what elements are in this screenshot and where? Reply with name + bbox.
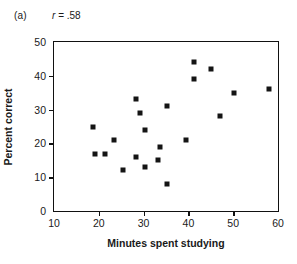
data-point <box>90 124 95 129</box>
data-point <box>183 138 188 143</box>
y-axis-tick-label: 50 <box>34 37 46 48</box>
y-axis-tick <box>49 143 54 145</box>
data-point <box>133 97 138 102</box>
data-point <box>191 60 196 65</box>
data-point <box>217 114 222 119</box>
data-point <box>165 181 170 186</box>
y-axis-tick-label: 10 <box>34 172 46 183</box>
y-axis-tick-label: 0 <box>40 206 46 217</box>
data-point <box>112 138 117 143</box>
data-point <box>208 67 213 72</box>
data-point <box>192 77 197 82</box>
panel-label: (a) <box>14 10 27 21</box>
data-point <box>93 151 98 156</box>
y-axis-tick <box>49 76 54 78</box>
x-axis-tick <box>144 211 146 216</box>
data-point-layer <box>54 42 278 211</box>
data-point <box>121 168 126 173</box>
correlation-symbol: r <box>52 10 55 21</box>
x-axis-tick-label: 60 <box>272 218 284 229</box>
data-point <box>143 165 148 170</box>
data-point <box>138 110 143 115</box>
data-point <box>102 151 107 156</box>
x-axis-tick-label: 20 <box>93 218 105 229</box>
x-axis-title-text: Minutes spent studying <box>107 237 224 249</box>
plot-area: 01020304050102030405060 <box>53 41 279 212</box>
correlation-annotation: r = .58 <box>52 10 81 21</box>
x-axis-tick-label: 30 <box>138 218 150 229</box>
x-axis-tick-label: 40 <box>183 218 195 229</box>
y-axis-title-text: Percent correct <box>2 88 14 165</box>
x-axis-tick <box>99 211 101 216</box>
y-axis-title: Percent correct <box>1 41 15 212</box>
data-point <box>134 154 139 159</box>
data-point <box>267 87 272 92</box>
x-axis-tick-label: 50 <box>227 218 239 229</box>
scatter-plot-figure: (a) r = .58 01020304050102030405060 Minu… <box>0 0 297 264</box>
y-axis-tick-label: 30 <box>34 104 46 115</box>
data-point <box>232 90 237 95</box>
data-point <box>142 127 147 132</box>
y-axis-tick <box>49 110 54 112</box>
y-axis-tick-label: 20 <box>34 138 46 149</box>
x-axis-tick <box>188 211 190 216</box>
x-axis-tick <box>233 211 235 216</box>
x-axis-tick-label: 10 <box>48 218 60 229</box>
y-axis-tick <box>49 177 54 179</box>
data-point <box>156 158 161 163</box>
y-axis-tick-label: 40 <box>34 71 46 82</box>
data-point <box>158 144 163 149</box>
data-point <box>165 104 170 109</box>
x-axis-title: Minutes spent studying <box>53 237 279 249</box>
correlation-value: = .58 <box>58 10 81 21</box>
